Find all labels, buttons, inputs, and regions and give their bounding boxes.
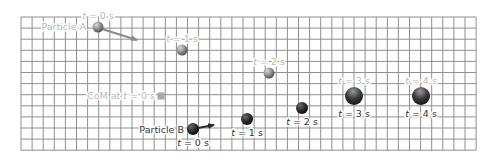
center-of-mass-marker bbox=[158, 93, 165, 100]
center-of-mass-label: CoM at t = 0 s bbox=[87, 90, 155, 101]
merged-bottom-time-label-t4: t = 4 s bbox=[405, 108, 437, 119]
particle-b-time-label-t2: t = 2 s bbox=[286, 116, 318, 127]
particle-a-ball-t0 bbox=[93, 22, 104, 33]
merged-ball-t3 bbox=[345, 87, 363, 105]
particle-b-time-label-t0: t = 0 s bbox=[177, 137, 209, 148]
merged-top-time-label-t4: t = 4 s bbox=[405, 75, 437, 86]
particle-a-ball-t1 bbox=[177, 45, 188, 56]
particle-b-ball-t0 bbox=[187, 123, 199, 135]
merged-bottom-time-label-t3: t = 3 s bbox=[338, 108, 370, 119]
particle-a-time-label-t0: t = 0 s bbox=[82, 10, 114, 21]
particle-b-time-label-t1: t = 1 s bbox=[231, 127, 263, 138]
particle-a-ball-t2 bbox=[264, 68, 275, 79]
particle-a-label: Particle A bbox=[41, 21, 86, 32]
particle-b-ball-t2 bbox=[296, 102, 308, 114]
merged-top-time-label-t3: t = 3 s bbox=[338, 75, 370, 86]
particle-a-time-label-t2: t = 2 s bbox=[253, 56, 285, 67]
particle-b-label: Particle B bbox=[139, 124, 184, 135]
center-of-mass-diagram: t = 0 st = 1 st = 2 st = 0 st = 1 st = 2… bbox=[0, 0, 494, 160]
particle-a-time-label-t1: t = 1 s bbox=[166, 33, 198, 44]
merged-ball-t4 bbox=[412, 87, 430, 105]
particle-b-ball-t1 bbox=[241, 113, 253, 125]
